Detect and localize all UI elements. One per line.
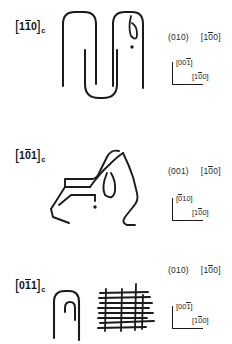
axis-horizontal-barred-digit: 0 [198, 72, 202, 81]
lamellar-line [100, 292, 148, 293]
zone-axis-label-011: [011]c [15, 278, 46, 294]
zone-subscript-c: c [41, 285, 45, 294]
direction-barred-digit: 0 [208, 32, 213, 42]
axis-horizontal-label: [100] [192, 72, 209, 81]
lamellar-cross-line [121, 289, 122, 331]
crystallographic-chain-fold-figure: [110]c (010) [100] [001] [100] [101]c [0, 0, 232, 344]
axis-vertical-label: [010] [176, 194, 193, 203]
lamellar-hatch-block [96, 283, 158, 335]
axis-horizontal-label: [100] [192, 208, 209, 217]
plane-index: (010) [168, 32, 189, 42]
panel-110: [110]c (010) [100] [001] [100] [0, 0, 232, 114]
axis-horizontal-barred-digit: 0 [198, 316, 202, 325]
zigzag-segment-inner [59, 195, 95, 205]
hairpin-sketch-011 [48, 282, 93, 342]
lamellar-cross-line [135, 284, 136, 330]
index-row-110: (010) [100] [168, 32, 221, 42]
axis-indicator-110: [001] [100] [170, 58, 226, 88]
chain-fold-sketch-110 [55, 6, 150, 106]
direction-index: [100] [201, 32, 221, 42]
hairpin-inner [65, 302, 75, 320]
direction-index: [100] [201, 265, 221, 275]
direction-index: [100] [201, 166, 221, 176]
plane-index: (010) [168, 265, 189, 275]
axis-horizontal-label: [100] [192, 316, 209, 325]
chain-end-dot [130, 45, 133, 48]
direction-barred-digit: 0 [208, 166, 213, 176]
central-teardrop-loop [103, 173, 115, 197]
lamellar-cross-line [105, 289, 106, 331]
lamellar-cross-line [142, 295, 143, 329]
axis-vertical-label: [001] [176, 302, 193, 311]
fold-loop-left [63, 12, 96, 86]
direction-barred-digit: 0 [208, 265, 213, 275]
zone-subscript-c: c [41, 26, 45, 35]
axis-indicator-101: [010] [100] [170, 194, 226, 224]
tight-teardrop-loop [130, 16, 138, 39]
panel-101: [101]c (001) [100] [010] [100] [0, 115, 232, 229]
axis-indicator-011: [001] [100] [170, 302, 226, 332]
chain-fold-sketch-101 [45, 143, 150, 228]
zone-axis-label-110: [110]c [15, 19, 46, 35]
axis-vertical-label: [001] [176, 58, 193, 67]
zigzag-shelf-upper-left [65, 179, 92, 187]
lamellar-line [100, 321, 154, 323]
index-row-011: (010) [100] [168, 265, 221, 275]
axis-horizontal-barred-digit: 0 [198, 208, 202, 217]
zigzag-segment-lower-left [51, 187, 90, 209]
zigzag-tail-left [51, 209, 69, 223]
zone-axis-label-101: [101]c [15, 148, 46, 164]
axis-vertical-barred-digit: 0 [178, 194, 182, 203]
panel-011: [011]c (010) [100] [001] [100] [0, 230, 232, 344]
plane-index: (001) [168, 166, 189, 176]
axis-vertical-barred-digit: 1 [186, 302, 190, 311]
index-row-101: (001) [100] [168, 166, 221, 176]
right-descending-chain [123, 153, 138, 225]
axis-vertical-barred-digit: 1 [186, 58, 190, 67]
chain-end-dot [93, 205, 96, 208]
